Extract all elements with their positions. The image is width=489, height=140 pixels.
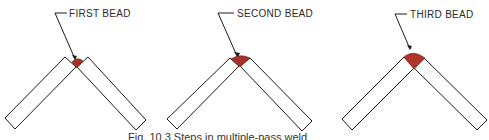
label-first-bead: FIRST BEAD — [69, 8, 131, 19]
panel-second-bead — [167, 13, 312, 131]
right-plate — [77, 57, 146, 130]
panel-first-bead — [5, 13, 146, 130]
left-plate — [5, 57, 76, 129]
left-plate — [342, 57, 414, 130]
label-second-bead: SECOND BEAD — [237, 8, 313, 19]
figure-caption: Fig. 10.3 Steps in multiple-pass weld — [128, 131, 307, 140]
leader-line — [55, 13, 75, 59]
leader-line — [218, 13, 237, 56]
right-plate — [240, 58, 312, 131]
panel-third-bead — [342, 14, 487, 130]
weld-diagram — [0, 0, 489, 140]
leader-line — [395, 14, 410, 49]
right-plate — [414, 58, 487, 130]
arrow-head — [407, 45, 412, 50]
label-third-bead: THIRD BEAD — [410, 9, 474, 20]
left-plate — [167, 58, 239, 129]
